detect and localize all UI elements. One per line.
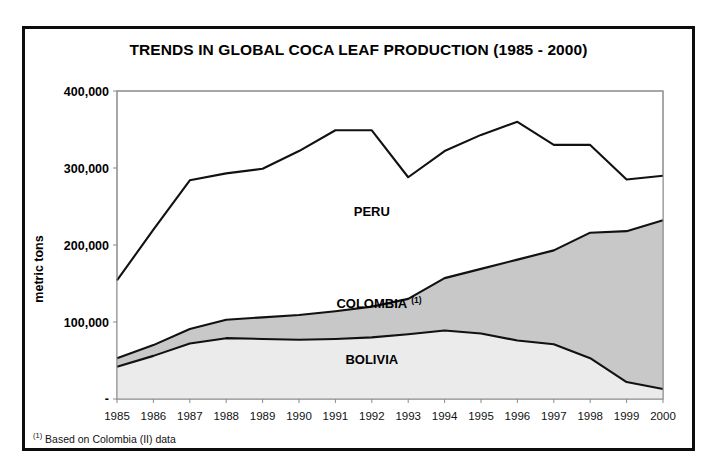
y-tick-label: 400,000 bbox=[64, 85, 109, 99]
x-tick-label: 1991 bbox=[323, 410, 349, 422]
y-axis-title: metric tons bbox=[32, 235, 46, 302]
x-tick-label: 1993 bbox=[395, 410, 421, 422]
series-label-text: PERU bbox=[354, 204, 390, 219]
y-tick-label: 200,000 bbox=[64, 239, 109, 253]
y-tick-label: - bbox=[105, 392, 109, 406]
series-label-superscript: (1) bbox=[411, 295, 422, 305]
series-label-text: COLOMBIA bbox=[336, 296, 407, 311]
coca-leaf-production-area-chart: metric tons 400,000300,000200,000100,000… bbox=[25, 29, 692, 448]
x-tick-label: 1999 bbox=[614, 410, 640, 422]
y-tick-label: 100,000 bbox=[64, 316, 109, 330]
series-label-peru: PERU bbox=[354, 204, 390, 219]
y-axis-title-text: metric tons bbox=[32, 235, 46, 302]
x-tick-label: 1989 bbox=[250, 410, 276, 422]
x-tick-label: 2000 bbox=[650, 410, 676, 422]
x-tick-label: 1986 bbox=[141, 410, 167, 422]
series-label-text: BOLIVIA bbox=[345, 352, 398, 367]
x-tick-label: 1996 bbox=[505, 410, 531, 422]
footnote-marker: (1) bbox=[33, 431, 42, 440]
series-label-bolivia: BOLIVIA bbox=[345, 352, 398, 367]
footnote-text: Based on Colombia (II) data bbox=[45, 432, 176, 444]
x-tick-label: 1990 bbox=[286, 410, 312, 422]
figure-frame: TRENDS IN GLOBAL COCA LEAF PRODUCTION (1… bbox=[22, 26, 695, 451]
x-tick-label: 1987 bbox=[177, 410, 203, 422]
y-axis-ticks: 400,000300,000200,000100,000- bbox=[64, 85, 117, 406]
x-tick-label: 1985 bbox=[104, 410, 130, 422]
x-tick-label: 1998 bbox=[577, 410, 603, 422]
x-axis-ticks: 1985198619871988198919901991199219931994… bbox=[104, 399, 676, 422]
x-tick-label: 1988 bbox=[213, 410, 239, 422]
y-tick-label: 300,000 bbox=[64, 162, 109, 176]
x-tick-label: 1995 bbox=[468, 410, 494, 422]
x-tick-label: 1992 bbox=[359, 410, 385, 422]
footnote: (1) Based on Colombia (II) data bbox=[33, 431, 176, 445]
x-tick-label: 1997 bbox=[541, 410, 567, 422]
x-tick-label: 1994 bbox=[432, 410, 458, 422]
